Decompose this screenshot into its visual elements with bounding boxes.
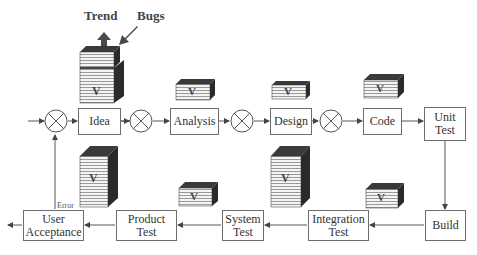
error-label: Error	[57, 201, 74, 210]
node-design: Design	[270, 108, 312, 135]
block-label-design: V	[284, 85, 292, 97]
node-analysis: Analysis	[170, 108, 219, 135]
block-label-bottom-2: V	[190, 190, 198, 202]
node-idea: Idea	[78, 108, 121, 135]
summing-junction-icon	[45, 110, 67, 132]
block-label-bottom-4: V	[377, 191, 385, 203]
block-label-code: V	[376, 82, 384, 94]
node-user-acceptance: User Acceptance	[23, 210, 84, 241]
node-build: Build	[425, 210, 466, 241]
node-product-test: Product Test	[116, 210, 177, 241]
trend-label: Trend	[84, 8, 117, 24]
node-integration-test: Integration Test	[308, 210, 369, 241]
node-unit-test: Unit Test	[424, 107, 466, 141]
block-label-bottom-1: V	[89, 171, 98, 186]
node-system-test: System Test	[222, 210, 264, 241]
block-label-analysis: V	[188, 85, 196, 97]
block-label-bottom-3: V	[281, 171, 290, 186]
bugs-label: Bugs	[137, 8, 164, 24]
process-diagram: V V V V V V V V Trend Bugs Error Idea An…	[0, 0, 477, 255]
node-code: Code	[363, 108, 402, 135]
block-label-idea: V	[92, 84, 101, 99]
